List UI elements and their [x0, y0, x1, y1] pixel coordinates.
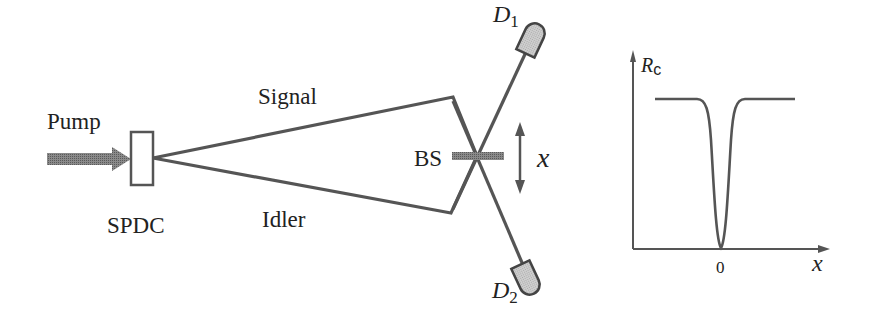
y-axis-arrow-icon — [630, 50, 636, 62]
chart-x-tick-zero: 0 — [716, 258, 725, 277]
displacement-label: x — [536, 142, 550, 173]
idler-label: Idler — [262, 207, 306, 232]
detector-d2-subscript: 2 — [509, 288, 518, 307]
spdc-crystal — [131, 132, 153, 185]
signal-label: Signal — [258, 84, 317, 109]
chart-curve — [655, 99, 795, 248]
pump-beam-arrow — [47, 147, 131, 171]
detector-d1-main: D — [492, 1, 510, 27]
coincidence-chart: Rc 0 x — [630, 50, 830, 277]
displacement-arrow-icon — [515, 122, 525, 194]
spdc-label: SPDC — [107, 213, 165, 238]
detector-d2-main: D — [491, 277, 509, 303]
detector-d1-icon — [516, 20, 548, 57]
diagram-svg: Pump SPDC Signal Idler BS x D1 — [0, 0, 871, 317]
hom-diagram: Pump SPDC Signal Idler BS x D1 — [0, 0, 871, 317]
chart-x-label: x — [811, 250, 823, 276]
detector-d1-label: D1 — [492, 1, 519, 31]
chart-y-label-subscript: c — [653, 61, 661, 78]
pump-label: Pump — [47, 109, 101, 134]
detector-d2-label: D2 — [491, 277, 518, 307]
beam-splitter-label: BS — [414, 146, 442, 171]
beam-splitter — [452, 152, 504, 160]
detector-d1-subscript: 1 — [510, 12, 519, 31]
chart-y-label-main: R — [640, 54, 653, 76]
chart-y-label: Rc — [640, 54, 661, 78]
